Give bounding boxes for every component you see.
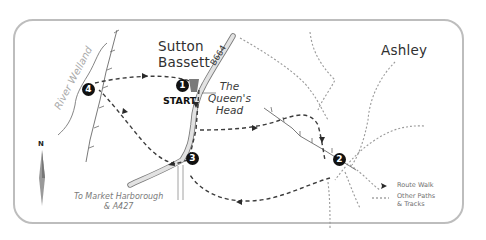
legend-route-arrow-icon <box>381 183 387 189</box>
village-label-ashley: Ashley <box>381 42 427 58</box>
north-label: N <box>38 140 44 148</box>
village-name-line2: Bassett <box>158 54 210 70</box>
pub-label-line2: Queen's <box>208 92 251 104</box>
pub-label-line3: Head <box>208 104 251 116</box>
pub-icon <box>189 79 199 92</box>
legend-symbols <box>372 183 389 198</box>
destination-line2: & A427 <box>74 202 163 212</box>
pub-label: The Queen's Head <box>208 80 251 116</box>
village-name-line1: Sutton <box>158 38 210 54</box>
legend-other-paths-line2: & Tracks <box>397 200 435 208</box>
legend-other-paths-line1: Other Paths <box>397 192 435 200</box>
side-road <box>178 165 183 200</box>
legend-other-paths-label: Other Paths & Tracks <box>397 192 435 208</box>
destination-label: To Market Harborough & A427 <box>74 192 163 212</box>
village-label-sutton-bassett: Sutton Bassett <box>158 38 210 70</box>
legend-route-walk-label: Route Walk <box>397 181 434 189</box>
waypoint-3: 3 <box>186 152 199 165</box>
waypoint-4: 4 <box>82 83 95 96</box>
pub-label-line1: The <box>208 80 251 92</box>
north-arrow-icon <box>39 150 45 206</box>
destination-line1: To Market Harborough <box>74 192 163 202</box>
waypoint-2: 2 <box>333 153 346 166</box>
waypoint-1: 1 <box>176 79 189 92</box>
start-label: START <box>163 95 196 106</box>
